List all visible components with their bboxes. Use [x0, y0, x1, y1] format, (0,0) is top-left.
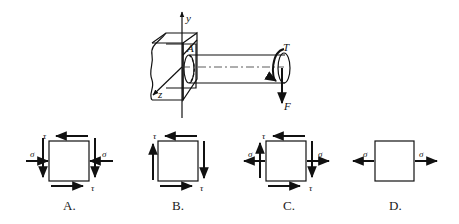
option-letter: C.: [283, 198, 295, 213]
stress-element-square: [49, 141, 89, 181]
cantilever-shaft-diagram: y A z T F: [151, 12, 291, 118]
option-d-element[interactable]: σ σ D.: [353, 141, 437, 213]
tau-bottom-label: τ: [91, 183, 95, 193]
point-a-label: A: [186, 42, 194, 54]
z-axis-label: z: [157, 88, 163, 100]
torque-label: T: [283, 41, 290, 53]
stress-element-square: [375, 141, 414, 181]
shaft-end-section: [278, 53, 290, 83]
tau-top-label: τ: [262, 131, 266, 141]
sigma-left-label: σ: [363, 149, 368, 159]
y-axis-label: y: [185, 12, 191, 24]
option-c-element[interactable]: τ τ σ σ C.: [244, 131, 329, 213]
sigma-right-label: σ: [102, 149, 107, 159]
option-b-element[interactable]: τ τ B.: [153, 131, 204, 213]
tau-bottom-label: τ: [200, 183, 204, 193]
sigma-right-label: σ: [318, 149, 323, 159]
option-a-element[interactable]: τ τ σ σ A.: [26, 131, 113, 213]
sigma-right-label: σ: [419, 149, 424, 159]
tau-top-label: τ: [153, 131, 157, 141]
sigma-left-label: σ: [248, 149, 253, 159]
option-letter: D.: [389, 198, 402, 213]
stress-element-square: [266, 141, 306, 181]
stress-element-square: [158, 141, 198, 181]
figure-canvas: y A z T F τ τ: [0, 0, 459, 224]
option-letter: B.: [172, 198, 184, 213]
force-label: F: [283, 100, 291, 112]
option-letter: A.: [63, 198, 76, 213]
tau-bottom-label: τ: [309, 183, 313, 193]
sigma-left-label: σ: [30, 149, 35, 159]
